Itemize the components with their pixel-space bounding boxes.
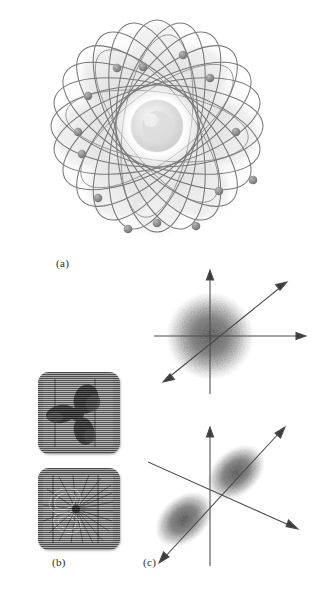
electron [84,92,93,101]
screen-inner [43,379,113,447]
starburst-interference-svg [43,475,113,543]
depth-axis-arrow-positive [276,282,288,290]
electron [139,63,148,72]
horizontal-axis-arrow [296,332,306,339]
caption-c: (c) [143,556,156,568]
electron [249,176,258,185]
electron [78,150,87,159]
nucleus-highlight [144,113,158,127]
electron [215,187,224,196]
caption-b: (b) [52,556,66,568]
s-orbital-plot [148,266,315,396]
screen-inner [43,475,113,543]
depth-axis-arrow-negative [163,374,175,382]
s-orbital-svg [148,266,315,396]
vertical-axis-arrow [206,270,213,280]
electron [94,194,103,203]
p-orbital-svg [148,416,315,571]
caption-a: (a) [56,257,69,269]
electron [179,51,188,60]
p-orbital-cloud [148,433,276,558]
starburst-center [72,505,80,513]
electron [74,128,83,137]
electron [124,225,133,234]
electron [192,222,201,231]
electron [232,128,241,137]
panel-a-classical-atom [0,8,315,258]
vertical-axis-arrow [206,427,213,437]
electron [153,219,162,228]
three-lobe-orbital-svg [43,379,113,447]
electron [113,64,122,73]
interference-starburst-screen [38,468,120,550]
orbital-lobes-screen [38,372,120,454]
depth-axis-arrow [286,520,298,529]
p-orbital-plot [148,416,315,571]
panel-c-probability-clouds [148,266,315,576]
figure-root: (a) (b) (c) [0,0,315,598]
electron [206,74,215,83]
classical-atom-svg [0,8,315,258]
panel-b-orbital-renders [30,362,140,552]
